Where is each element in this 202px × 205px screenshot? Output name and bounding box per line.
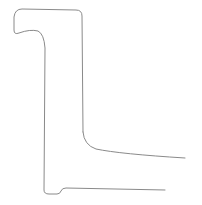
sketch-canvas xyxy=(0,0,202,205)
